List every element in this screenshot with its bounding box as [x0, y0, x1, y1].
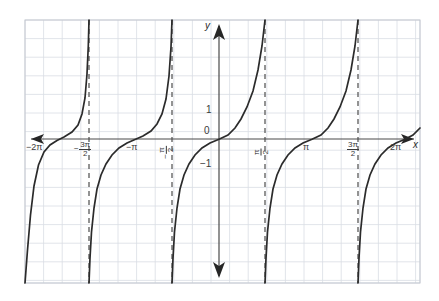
fraction-3pi-2: 3π2: [79, 141, 91, 158]
fraction-denominator: 2: [261, 148, 270, 156]
x-tick-label-neg-2pi: −2π: [26, 143, 42, 152]
tangent-graph-figure: y x 1 0 −1 −2π −3π2 −π −π2 π2 π 3π2 2π: [0, 0, 439, 301]
y-axis-label: y: [205, 20, 210, 31]
fraction-pi-2: π2: [158, 146, 175, 154]
minus-sign: −: [162, 154, 170, 159]
x-tick-label-2pi: 2π: [390, 143, 401, 152]
fraction-numerator: 3π: [347, 141, 359, 149]
x-tick-label-pi: π: [303, 143, 309, 152]
x-axis-label: x: [413, 139, 418, 150]
fraction-denominator: 2: [166, 146, 175, 154]
y-tick-label-neg1: −1: [200, 158, 211, 169]
fraction-pi-2: π2: [253, 148, 270, 156]
y-tick-label-1: 1: [206, 104, 212, 115]
x-tick-label-3pi-over-2: 3π2: [347, 141, 359, 158]
x-tick-label-neg-pi-over-2: −π2: [158, 146, 175, 159]
fraction-3pi-2: 3π2: [347, 141, 359, 158]
fraction-numerator: π: [253, 148, 261, 156]
plot-canvas: [0, 0, 439, 301]
fraction-numerator: π: [158, 146, 166, 154]
y-axis: [213, 24, 225, 278]
y-tick-label-0: 0: [204, 125, 210, 136]
tangent-branch-5: [358, 128, 420, 283]
fraction-denominator: 2: [79, 149, 91, 158]
fraction-denominator: 2: [347, 149, 359, 158]
x-tick-label-neg-pi: −π: [126, 143, 137, 152]
x-tick-label-neg-3pi-over-2: −3π2: [74, 141, 91, 158]
fraction-numerator: 3π: [79, 141, 91, 149]
x-tick-label-pi-over-2: π2: [253, 148, 270, 156]
